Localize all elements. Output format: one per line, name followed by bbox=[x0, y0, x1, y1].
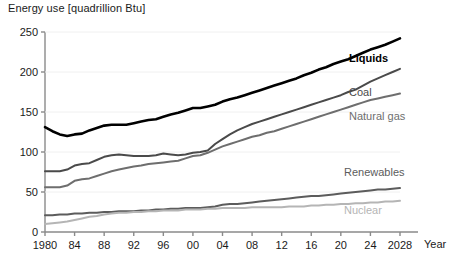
series-label-liquids: Liquids bbox=[349, 52, 388, 64]
x-axis: 198084889296000408121620242028 bbox=[33, 232, 418, 251]
series-lines bbox=[45, 38, 400, 224]
x-tick-label: 16 bbox=[305, 239, 317, 251]
x-tick-label: 12 bbox=[276, 239, 288, 251]
x-axis-title: Year bbox=[424, 238, 447, 250]
x-tick-label: 24 bbox=[364, 239, 376, 251]
series-label-renewables: Renewables bbox=[344, 166, 405, 178]
series-label-coal: Coal bbox=[349, 86, 372, 98]
x-tick-label: 04 bbox=[216, 239, 228, 251]
x-tick-label: 84 bbox=[68, 239, 80, 251]
y-tick-label: 250 bbox=[20, 26, 38, 38]
x-tick-label: 92 bbox=[128, 239, 140, 251]
y-tick-label: 150 bbox=[20, 106, 38, 118]
x-tick-label: 2028 bbox=[388, 239, 412, 251]
y-tick-label: 0 bbox=[32, 226, 38, 238]
chart-plot-area: 050100150200250 198084889296000408121620… bbox=[0, 0, 462, 267]
y-tick-label: 200 bbox=[20, 66, 38, 78]
series-line-liquids bbox=[45, 38, 400, 136]
x-tick-label: 88 bbox=[98, 239, 110, 251]
series-label-nuclear: Nuclear bbox=[344, 204, 382, 216]
x-tick-label: 1980 bbox=[33, 239, 57, 251]
x-tick-label: 08 bbox=[246, 239, 258, 251]
y-tick-label: 100 bbox=[20, 146, 38, 158]
x-tick-label: 96 bbox=[157, 239, 169, 251]
series-line-coal bbox=[45, 69, 400, 171]
series-label-natural-gas: Natural gas bbox=[349, 110, 406, 122]
x-tick-label: 00 bbox=[187, 239, 199, 251]
x-tick-label: 20 bbox=[335, 239, 347, 251]
chart-container: Energy use [quadrillion Btu] 05010015020… bbox=[0, 0, 462, 267]
y-tick-label: 50 bbox=[26, 186, 38, 198]
